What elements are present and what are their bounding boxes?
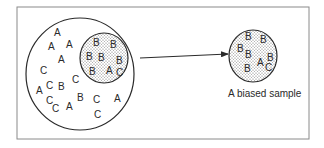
letter-b: B: [89, 66, 96, 77]
letter-c: C: [93, 94, 100, 105]
letter-a: A: [66, 39, 73, 50]
letter-a: A: [48, 41, 55, 52]
letter-b: B: [116, 55, 123, 66]
letter-c: C: [116, 67, 123, 78]
letter-b: B: [110, 39, 117, 50]
letter-c: C: [52, 103, 59, 114]
arrow-icon: [140, 54, 228, 58]
letter-b: B: [86, 51, 93, 62]
sample-caption: A biased sample: [228, 88, 302, 99]
letter-b: B: [260, 34, 267, 45]
letter-b: B: [245, 31, 252, 42]
letter-b: B: [244, 63, 251, 74]
letter-b: B: [98, 52, 105, 63]
letter-c: C: [265, 62, 272, 73]
letter-a: A: [257, 57, 264, 68]
biased-sample-diagram: AAAACCACBCCABCAC BBBBBBAC BBBBABCB A bia…: [0, 0, 324, 148]
letter-c: C: [40, 65, 47, 76]
letter-a: A: [114, 93, 121, 104]
letter-b: B: [77, 92, 84, 103]
letter-b: B: [93, 37, 100, 48]
letter-a: A: [36, 85, 43, 96]
letter-c: C: [72, 74, 79, 85]
letter-c: C: [94, 109, 101, 120]
letter-b: B: [237, 43, 244, 54]
letter-b: B: [58, 81, 65, 92]
letter-a: A: [54, 27, 61, 38]
letter-a: A: [58, 54, 65, 65]
letter-b: B: [245, 49, 252, 60]
letter-a: A: [106, 65, 113, 76]
letter-a: A: [66, 101, 73, 112]
letter-c: C: [46, 80, 53, 91]
